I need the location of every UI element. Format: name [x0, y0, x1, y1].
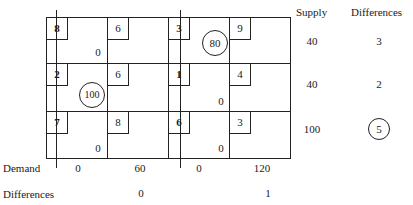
column-difference-c4: 1: [248, 187, 288, 199]
cost-box-r2-c2: 6: [107, 63, 129, 86]
cost-box-r3-c2: 8: [107, 111, 129, 134]
strike-line-col-1: [56, 10, 57, 168]
row-difference-r2: 2: [359, 78, 399, 90]
supply-header: Supply: [296, 6, 327, 18]
demand-c1: 0: [58, 162, 98, 174]
grid-right-border: [290, 17, 291, 159]
supply-r3: 100: [292, 123, 332, 135]
cost-box-r2-c3: 1: [168, 63, 190, 86]
cost-box-r1-c3: 3: [168, 17, 190, 40]
cost-box-r2-c4: 4: [229, 63, 251, 86]
cost-box-r3-c3: 6: [168, 111, 190, 134]
cost-box-r1-c1: 8: [46, 17, 68, 40]
allocation-r1-c3: 80: [210, 37, 221, 49]
row-differences-header: Differences: [351, 6, 402, 18]
allocation-circle-r1-c3: 80: [202, 30, 228, 56]
demand-c3: 0: [179, 162, 219, 174]
supply-r1: 40: [292, 35, 332, 47]
cost-box-r1-c4: 9: [229, 17, 251, 40]
allocation-r1-c1: 0: [83, 46, 113, 58]
row-difference-r3: 5: [376, 123, 382, 135]
allocation-circle-r2-c1: 100: [79, 82, 105, 108]
demand-label: Demand: [3, 162, 40, 174]
row-difference-circle-r3: 5: [368, 118, 390, 140]
cost-box-r1-c2: 6: [107, 17, 129, 40]
demand-c4: 120: [242, 162, 282, 174]
supply-r2: 40: [292, 78, 332, 90]
row-difference-r1: 3: [359, 35, 399, 47]
allocation-r3-c3: 0: [206, 142, 236, 154]
cost-box-r3-c1: 7: [46, 111, 68, 134]
strike-line-col-3: [180, 10, 181, 168]
column-differences-label: Differences: [3, 188, 54, 200]
demand-c2: 60: [120, 162, 160, 174]
allocation-r3-c1: 0: [83, 142, 113, 154]
allocation-r2-c3: 0: [206, 95, 236, 107]
cost-box-r2-c1: 2: [46, 63, 68, 86]
cost-box-r3-c4: 3: [229, 111, 251, 134]
column-difference-c2: 0: [121, 187, 161, 199]
allocation-r2-c1: 100: [85, 89, 100, 100]
